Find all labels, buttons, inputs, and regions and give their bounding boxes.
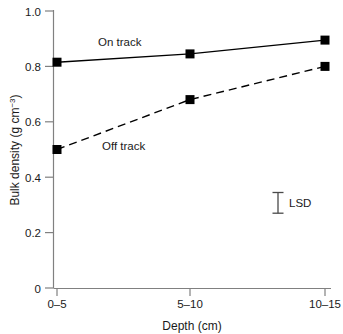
data-point-off-track-2 (321, 62, 330, 71)
x-category-label-1: 5–10 (177, 298, 203, 310)
y-tick-label-0.6: 0.6 (25, 116, 41, 128)
svg-text:Bulk density (g cm−3): Bulk density (g cm−3) (8, 94, 22, 205)
data-point-off-track-1 (186, 95, 195, 104)
y-tick-label-0.4: 0.4 (25, 172, 42, 184)
y-tick-label-0: 0 (35, 283, 41, 295)
y-tick-label-0.2: 0.2 (25, 227, 41, 239)
data-point-on-track-2 (321, 36, 330, 45)
x-category-label-2: 10–15 (309, 298, 341, 310)
y-axis-title-end: ) (8, 94, 22, 98)
y-axis-title: Bulk density (g cm−3) (8, 94, 22, 205)
chart-canvas: 1.0 0.8 0.6 0.4 0.2 0 0–5 5–10 10–15 Dep… (0, 0, 343, 334)
off-track-series-label: Off track (102, 140, 145, 152)
x-axis-title: Depth (cm) (162, 319, 221, 333)
bulk-density-depth-chart: 1.0 0.8 0.6 0.4 0.2 0 0–5 5–10 10–15 Dep… (0, 0, 343, 334)
y-tick-label-1.0: 1.0 (25, 6, 41, 18)
chart-background (0, 0, 343, 334)
data-point-on-track-0 (53, 58, 62, 67)
lsd-label: LSD (289, 197, 311, 209)
x-category-label-0: 0–5 (47, 298, 66, 310)
data-point-off-track-0 (53, 145, 62, 154)
on-track-series-label: On track (98, 36, 142, 48)
y-axis-title-main: Bulk density (g cm (8, 108, 22, 206)
data-point-on-track-1 (186, 49, 195, 58)
y-tick-label-0.8: 0.8 (25, 61, 41, 73)
